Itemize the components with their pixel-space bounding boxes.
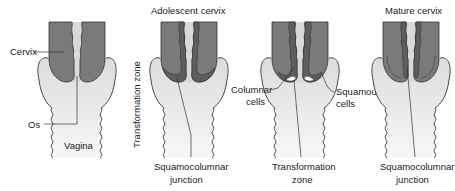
label-transformation-zone-line2: zone xyxy=(292,174,313,185)
label-columnar-line2: cells xyxy=(246,96,265,107)
label-scj-line2: junction xyxy=(169,174,203,185)
panel-2-adolescent-cervix xyxy=(150,22,228,158)
panel-1-cervix-vagina xyxy=(34,22,116,158)
cervix-diagram: Cervix Os Vagina Adolescent cervix Trans… xyxy=(0,0,455,191)
panel-3-transformation xyxy=(261,22,339,158)
label-columnar-line1: Columnar xyxy=(231,84,272,95)
panel-4-mature-cervix xyxy=(372,22,450,158)
label-transformation-zone-vertical: Transformation zone xyxy=(131,61,142,148)
panel-4-title: Mature cervix xyxy=(385,5,442,16)
label-scj-line1: Squamocolumnar xyxy=(154,161,228,172)
label-scj-mature-line1: Squamocolumnar xyxy=(380,161,454,172)
label-transformation-zone-line1: Transformation xyxy=(272,161,336,172)
label-cervix: Cervix xyxy=(10,46,37,57)
label-vagina: Vagina xyxy=(64,140,94,151)
panel-2-title: Adolescent cervix xyxy=(151,5,226,16)
label-os: Os xyxy=(28,119,40,130)
label-scj-mature-line2: junction xyxy=(395,174,429,185)
label-squamous-line2: cells xyxy=(336,98,355,109)
